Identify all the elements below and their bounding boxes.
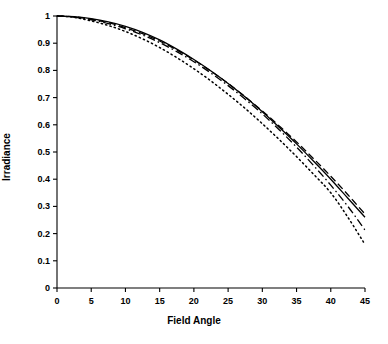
y-tick-label: 0.2 bbox=[14, 229, 50, 238]
x-tick-label: 20 bbox=[189, 297, 199, 306]
x-tick-label: 30 bbox=[257, 297, 267, 306]
y-tick-label: 0.6 bbox=[14, 120, 50, 129]
x-axis-title: Field Angle bbox=[0, 316, 388, 326]
y-tick-label: 1 bbox=[14, 12, 50, 21]
x-tick-label: 35 bbox=[292, 297, 302, 306]
x-tick-label: 15 bbox=[155, 297, 165, 306]
y-axis-title: Irradiance bbox=[2, 117, 12, 197]
plot-canvas bbox=[0, 0, 388, 344]
x-tick-label: 45 bbox=[360, 297, 370, 306]
y-tick-label: 0.3 bbox=[14, 202, 50, 211]
x-tick-label: 40 bbox=[326, 297, 336, 306]
y-tick-label: 0 bbox=[14, 284, 50, 293]
curve-solid bbox=[57, 16, 365, 217]
curve-dotted bbox=[57, 16, 365, 244]
y-tick-label: 0.8 bbox=[14, 66, 50, 75]
axis-lines bbox=[57, 16, 365, 288]
irradiance-vs-field-angle-chart: 00.10.20.30.40.50.60.70.80.91 0510152025… bbox=[0, 0, 388, 344]
y-axis-ticks bbox=[53, 16, 57, 288]
x-tick-label: 25 bbox=[223, 297, 233, 306]
x-axis-ticks bbox=[57, 288, 365, 292]
x-tick-label: 0 bbox=[54, 297, 59, 306]
y-tick-label: 0.9 bbox=[14, 39, 50, 48]
x-tick-label: 10 bbox=[120, 297, 130, 306]
x-tick-label: 5 bbox=[89, 297, 94, 306]
y-tick-label: 0.7 bbox=[14, 93, 50, 102]
y-tick-label: 0.4 bbox=[14, 175, 50, 184]
y-tick-label: 0.1 bbox=[14, 256, 50, 265]
curve-dash-dot bbox=[57, 16, 365, 230]
curve-dashed bbox=[57, 16, 365, 214]
y-tick-label: 0.5 bbox=[14, 148, 50, 157]
data-series-group bbox=[57, 16, 365, 244]
